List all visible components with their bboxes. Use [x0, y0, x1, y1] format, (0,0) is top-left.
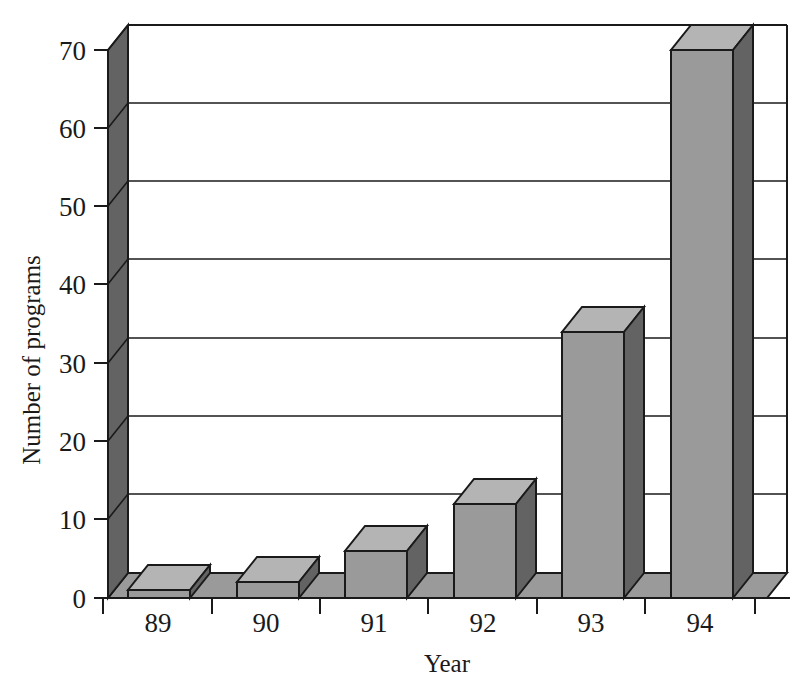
xtick-label-94: 94: [687, 608, 715, 638]
x-axis-title-group: Year: [424, 650, 471, 677]
ytick-label-30: 30: [59, 349, 86, 379]
x-axis-tick-labels: 89 90 91 92 93 94: [145, 608, 715, 638]
ytick-label-40: 40: [59, 270, 86, 300]
chart-canvas: 70 60 50 40 30 20 10 0 Number of program…: [0, 0, 804, 683]
bar-94-front: [671, 50, 733, 598]
xtick-label-92: 92: [470, 608, 497, 638]
ytick-label-0: 0: [73, 584, 87, 614]
y-axis-tick-labels: 70 60 50 40 30 20 10 0: [59, 36, 86, 614]
y-axis-ticks: [94, 50, 108, 598]
ytick-label-20: 20: [59, 427, 86, 457]
xtick-label-89: 89: [145, 608, 172, 638]
x-axis-title: Year: [424, 650, 471, 677]
bar-93-side: [624, 307, 644, 598]
plot-left-wall: [108, 25, 128, 598]
bar-89-front: [128, 590, 190, 598]
ytick-label-50: 50: [59, 192, 86, 222]
bar-93-front: [562, 332, 624, 598]
bar-92-front: [454, 504, 516, 598]
bar-91[interactable]: [345, 526, 427, 598]
ytick-label-10: 10: [59, 505, 86, 535]
bar-91-front: [345, 551, 407, 598]
xtick-label-90: 90: [253, 608, 280, 638]
bar-94[interactable]: [671, 25, 753, 598]
xtick-label-93: 93: [578, 608, 605, 638]
xtick-label-91: 91: [361, 608, 388, 638]
y-axis-title-group: Number of programs: [18, 255, 45, 465]
ytick-label-60: 60: [59, 114, 86, 144]
bar-chart-figure: 70 60 50 40 30 20 10 0 Number of program…: [0, 0, 804, 683]
y-axis-title: Number of programs: [18, 255, 45, 465]
bar-90-front: [237, 582, 299, 598]
bar-92[interactable]: [454, 479, 536, 598]
bar-94-side: [733, 25, 753, 598]
bar-93[interactable]: [562, 307, 644, 598]
ytick-label-70: 70: [59, 36, 86, 66]
x-axis-ticks: [103, 598, 755, 614]
